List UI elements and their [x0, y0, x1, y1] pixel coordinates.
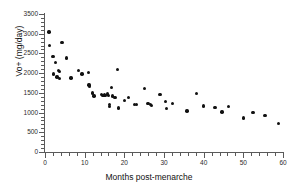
y-axis-minor-tick — [41, 117, 44, 118]
data-point — [143, 87, 146, 90]
data-point — [65, 56, 68, 59]
x-axis-minor-tick — [132, 153, 133, 156]
y-axis-minor-tick — [41, 38, 44, 39]
y-axis-tick — [39, 14, 44, 15]
x-axis-tick — [45, 153, 46, 158]
x-axis-minor-tick — [212, 153, 213, 156]
data-point — [171, 102, 174, 105]
x-axis-tick — [124, 153, 125, 158]
y-axis-minor-tick — [41, 22, 44, 23]
x-axis-minor-tick — [188, 153, 189, 156]
x-axis-minor-tick — [156, 153, 157, 156]
x-axis-minor-tick — [77, 153, 78, 156]
x-axis-minor-tick — [69, 153, 70, 156]
y-axis-tick-label: 2000 — [24, 70, 38, 77]
x-axis-minor-tick — [227, 153, 228, 156]
y-axis-minor-tick — [41, 140, 44, 141]
data-point — [69, 76, 72, 79]
data-point — [113, 96, 116, 99]
x-axis-minor-tick — [220, 153, 221, 156]
data-point — [58, 77, 61, 80]
y-axis-minor-tick — [41, 105, 44, 106]
x-axis-tick — [204, 153, 205, 158]
data-point — [108, 105, 111, 108]
y-axis-minor-tick — [41, 69, 44, 70]
data-point — [242, 116, 245, 119]
x-axis-minor-tick — [116, 153, 117, 156]
x-axis-tick-label: 10 — [81, 160, 88, 167]
data-point — [92, 94, 95, 97]
y-axis-minor-tick — [41, 144, 44, 145]
y-axis-tick — [39, 34, 44, 35]
data-point — [107, 94, 110, 97]
data-point — [117, 106, 120, 109]
x-axis-minor-tick — [108, 153, 109, 156]
x-axis-tick-label: 0 — [43, 160, 47, 167]
y-axis-tick — [39, 73, 44, 74]
x-axis-minor-tick — [101, 153, 102, 156]
data-point — [277, 122, 280, 125]
y-axis-minor-tick — [41, 85, 44, 86]
data-point — [58, 70, 61, 73]
data-point — [220, 110, 223, 113]
data-point — [150, 104, 153, 107]
x-axis-minor-tick — [235, 153, 236, 156]
data-point — [110, 86, 113, 89]
data-point — [54, 61, 57, 64]
y-axis-tick-label: 1500 — [24, 90, 38, 97]
y-axis-minor-tick — [41, 57, 44, 58]
y-axis-minor-tick — [41, 97, 44, 98]
y-axis-minor-tick — [41, 128, 44, 129]
x-axis-minor-tick — [172, 153, 173, 156]
y-axis-minor-tick — [41, 109, 44, 110]
x-axis-minor-tick — [53, 153, 54, 156]
x-axis-minor-tick — [259, 153, 260, 156]
x-axis-minor-tick — [267, 153, 268, 156]
data-point — [51, 55, 54, 58]
data-point — [263, 114, 266, 117]
y-axis-minor-tick — [41, 136, 44, 137]
data-point — [127, 96, 130, 99]
x-axis-minor-tick — [251, 153, 252, 156]
data-point — [251, 111, 254, 114]
y-axis-minor-tick — [41, 81, 44, 82]
x-axis-minor-tick — [93, 153, 94, 156]
y-axis-minor-tick — [41, 61, 44, 62]
data-point — [227, 105, 230, 108]
plot-area — [45, 14, 283, 152]
y-axis-tick-label: 2500 — [24, 50, 38, 57]
data-point — [165, 107, 168, 110]
data-point — [60, 41, 63, 44]
data-point — [213, 106, 216, 109]
y-axis-tick-label: 3000 — [24, 31, 38, 38]
x-axis-minor-tick — [61, 153, 62, 156]
data-point — [87, 71, 90, 74]
y-axis-minor-tick — [41, 89, 44, 90]
x-axis-tick — [243, 153, 244, 158]
data-point — [135, 103, 138, 106]
y-axis-minor-tick — [41, 65, 44, 66]
y-axis-minor-tick — [41, 18, 44, 19]
y-axis-minor-tick — [41, 30, 44, 31]
x-axis-minor-tick — [180, 153, 181, 156]
data-point — [123, 99, 126, 102]
x-axis-tick-label: 30 — [160, 160, 167, 167]
x-axis-minor-tick — [196, 153, 197, 156]
y-axis-minor-tick — [41, 124, 44, 125]
data-point — [80, 72, 83, 75]
data-point — [202, 104, 205, 107]
x-axis-minor-tick — [140, 153, 141, 156]
data-points-layer — [45, 14, 283, 152]
x-axis-tick-label: 40 — [200, 160, 207, 167]
y-axis-minor-tick — [41, 42, 44, 43]
data-point — [164, 100, 167, 103]
y-axis-tick-label: 500 — [27, 129, 38, 136]
y-axis-spine — [44, 13, 45, 153]
x-axis-tick-label: 50 — [240, 160, 247, 167]
y-axis-minor-tick — [41, 46, 44, 47]
y-axis-title: Vo+ (mg/day) — [14, 0, 24, 106]
y-axis-minor-tick — [41, 49, 44, 50]
data-point — [47, 30, 50, 33]
y-axis-tick — [39, 152, 44, 153]
y-axis-tick — [39, 113, 44, 114]
